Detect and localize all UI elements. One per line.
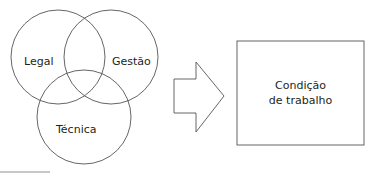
result-line-2: de trabalho	[269, 94, 333, 107]
diagram-canvas: Legal Gestão Técnica Condição de trabalh…	[0, 0, 372, 175]
venn-diagram	[11, 10, 158, 164]
circle-tecnica	[37, 70, 131, 164]
label-tecnica: Técnica	[55, 123, 96, 136]
result-line-1: Condição	[275, 79, 326, 92]
arrow-right-icon	[174, 62, 224, 132]
bottom-rule	[0, 171, 50, 173]
result-box	[237, 41, 364, 145]
label-gestao: Gestão	[112, 55, 151, 68]
label-legal: Legal	[24, 55, 53, 68]
